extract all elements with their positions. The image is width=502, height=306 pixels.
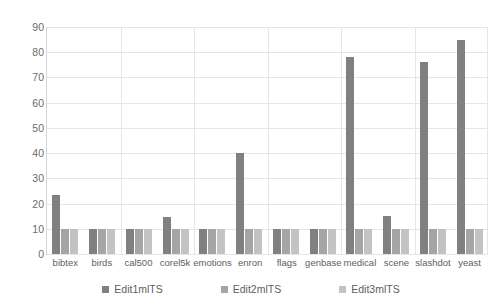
y-axis-tick-label: 60: [4, 98, 44, 108]
bar: [98, 229, 106, 254]
bar-group: [268, 27, 305, 254]
bar-group: [415, 27, 452, 254]
bar: [236, 153, 244, 254]
bar: [107, 229, 115, 254]
bar-group: [231, 27, 268, 254]
x-axis-category-label: birds: [84, 257, 121, 269]
x-axis-category-label: flags: [268, 257, 305, 269]
x-axis-category-label: corel5k: [157, 257, 194, 269]
bar-group-bars: [341, 27, 378, 254]
x-axis-category-label: slashdot: [415, 257, 452, 269]
x-axis-category-label: scene: [378, 257, 415, 269]
y-axis-tick-label: 10: [4, 224, 44, 234]
bar-group-bars: [268, 27, 305, 254]
bar: [291, 229, 299, 254]
bar-group-bars: [121, 27, 158, 254]
bar-group-bars: [47, 27, 84, 254]
bar: [273, 229, 281, 254]
legend-label: Edit2mlTS: [233, 283, 281, 295]
legend-label: Edit3mlTS: [351, 283, 399, 295]
bar-group-bars: [415, 27, 452, 254]
bar: [245, 229, 253, 254]
y-axis-tick-label: 90: [4, 22, 44, 32]
x-axis-category-label: enron: [232, 257, 269, 269]
y-axis-tick-label: 0: [4, 249, 44, 259]
bar: [457, 40, 465, 254]
x-axis-category-label: yeast: [451, 257, 488, 269]
x-axis-category-label: emotions: [193, 257, 232, 269]
bar: [208, 229, 216, 254]
bar-group: [451, 27, 488, 254]
y-axis-tick-label: 30: [4, 173, 44, 183]
y-axis-tick-label: 20: [4, 199, 44, 209]
bar-group: [84, 27, 121, 254]
bar: [70, 229, 78, 254]
y-axis-tick-labels: 0102030405060708090: [0, 0, 44, 306]
bar: [401, 229, 409, 254]
chart-legend: Edit1mlTSEdit2mlTSEdit3mlTS: [0, 283, 502, 295]
bar: [346, 57, 354, 254]
y-axis-tick-label: 50: [4, 123, 44, 133]
bar: [282, 229, 290, 254]
bar-group-bars: [451, 27, 488, 254]
bar: [466, 229, 474, 254]
bar-group-bars: [231, 27, 268, 254]
bar: [199, 229, 207, 254]
bar-group-bars: [304, 27, 341, 254]
x-axis-category-label: medical: [342, 257, 379, 269]
bar: [61, 229, 69, 254]
x-axis-category-label: bibtex: [47, 257, 84, 269]
bar: [144, 229, 152, 254]
bar: [364, 229, 372, 254]
bar: [392, 229, 400, 254]
bar: [254, 229, 262, 254]
bar-group: [194, 27, 231, 254]
bar: [429, 229, 437, 254]
legend-label: Edit1mlTS: [114, 283, 162, 295]
bar: [319, 229, 327, 254]
y-axis-tick-label: 80: [4, 47, 44, 57]
bar: [355, 229, 363, 254]
x-axis-category-label: cal500: [120, 257, 157, 269]
bar-group: [47, 27, 84, 254]
bar-groups: [47, 27, 488, 254]
bar: [135, 229, 143, 254]
legend-item[interactable]: Edit2mlTS: [221, 283, 281, 295]
bar-group: [378, 27, 415, 254]
bar-group-bars: [194, 27, 231, 254]
y-axis-tick-label: 70: [4, 72, 44, 82]
x-axis-category-label: genbase: [305, 257, 342, 269]
bar-group-bars: [378, 27, 415, 254]
bar-chart: 0102030405060708090 bibtexbirdscal500cor…: [0, 0, 502, 306]
legend-swatch-icon: [339, 286, 346, 293]
bar-group-bars: [157, 27, 194, 254]
bar: [328, 229, 336, 254]
bar-group: [341, 27, 378, 254]
bar: [310, 229, 318, 254]
legend-swatch-icon: [102, 286, 109, 293]
bar-group-bars: [84, 27, 121, 254]
bar: [89, 229, 97, 254]
bar-group: [157, 27, 194, 254]
y-axis-tick-label: 40: [4, 148, 44, 158]
bar: [217, 229, 225, 254]
bar: [52, 195, 60, 254]
legend-swatch-icon: [221, 286, 228, 293]
bar: [172, 229, 180, 254]
x-axis-category-labels: bibtexbirdscal500corel5kemotionsenronfla…: [47, 257, 488, 269]
bar: [438, 229, 446, 254]
bar: [126, 229, 134, 254]
bar: [163, 217, 171, 254]
legend-item[interactable]: Edit1mlTS: [102, 283, 162, 295]
bar: [420, 62, 428, 254]
bar-group: [121, 27, 158, 254]
bar: [383, 216, 391, 254]
gridline-horizontal: [47, 254, 488, 255]
legend-item[interactable]: Edit3mlTS: [339, 283, 399, 295]
bar: [181, 229, 189, 254]
bar-group: [304, 27, 341, 254]
bar: [475, 229, 483, 254]
